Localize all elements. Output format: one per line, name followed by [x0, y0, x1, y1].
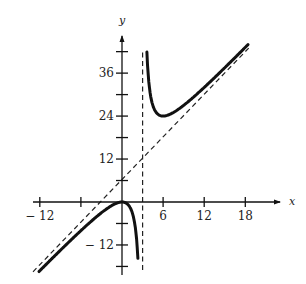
- asymptote-line: [33, 48, 249, 272]
- y-tick-label: 12: [99, 152, 114, 166]
- asymptotes: [33, 48, 249, 272]
- function-curves: [39, 45, 248, 272]
- y-tick-label: 24: [99, 109, 115, 123]
- y-axis-label: y: [118, 14, 126, 27]
- function-graph: − 1261218362412− 12 x y: [0, 0, 306, 284]
- x-tick-label: 18: [238, 209, 253, 223]
- x-tick-label: 6: [159, 209, 167, 223]
- x-tick-label: − 12: [25, 209, 54, 223]
- x-axis-label: x: [289, 195, 296, 208]
- y-tick-label: − 12: [85, 238, 114, 252]
- ticks: − 1261218362412− 12: [25, 52, 253, 267]
- function-curve: [147, 45, 248, 117]
- y-tick-label: 36: [99, 66, 114, 80]
- x-tick-label: 12: [197, 209, 212, 223]
